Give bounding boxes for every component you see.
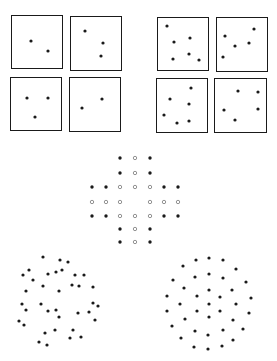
dot — [234, 267, 237, 270]
dot — [29, 39, 32, 42]
dot — [87, 310, 90, 313]
hollow-dot — [118, 214, 121, 217]
dot — [182, 286, 185, 289]
hollow-dot — [133, 240, 136, 243]
dot — [222, 108, 225, 111]
hollow-dot — [176, 200, 179, 203]
dot — [187, 119, 190, 122]
dot-box-7 — [157, 79, 208, 133]
boxed-dot-groups — [11, 16, 268, 133]
hollow-dot — [118, 185, 121, 188]
dot — [57, 315, 60, 318]
dot — [37, 340, 40, 343]
filled-dot — [176, 214, 179, 217]
dot — [188, 36, 191, 39]
dot — [207, 288, 210, 291]
dot — [46, 49, 49, 52]
dot-box-8 — [215, 79, 267, 133]
dot — [192, 345, 195, 348]
dot — [162, 113, 165, 116]
dot — [197, 58, 200, 61]
dot — [27, 268, 30, 271]
dot — [70, 283, 73, 286]
dot — [168, 97, 171, 100]
dot — [221, 55, 224, 58]
dot — [247, 41, 250, 44]
dot — [223, 34, 226, 37]
filled-dot — [90, 185, 93, 188]
filled-dot — [148, 156, 151, 159]
dot — [221, 258, 224, 261]
box-outline — [12, 16, 63, 69]
dot — [179, 336, 182, 339]
dot — [236, 89, 239, 92]
dot — [68, 336, 71, 339]
dot — [91, 301, 94, 304]
dot — [207, 302, 210, 305]
dot — [170, 324, 173, 327]
box-outline — [70, 78, 121, 132]
dot — [54, 270, 57, 273]
dot — [91, 285, 94, 288]
dot — [187, 52, 190, 55]
filled-dot — [118, 156, 121, 159]
dot — [101, 41, 104, 44]
dot — [41, 255, 44, 258]
dot — [25, 96, 28, 99]
box-outline — [215, 79, 267, 133]
dot — [99, 54, 102, 57]
dot — [165, 294, 168, 297]
dot — [17, 319, 20, 322]
dot — [234, 302, 237, 305]
filled-dot — [148, 227, 151, 230]
cross-dot-pattern — [90, 156, 179, 243]
dot — [58, 258, 61, 261]
filled-dot — [162, 214, 165, 217]
dot — [20, 302, 23, 305]
filled-dot — [176, 185, 179, 188]
filled-dot — [104, 214, 107, 217]
dot — [181, 264, 184, 267]
hollow-dot — [133, 171, 136, 174]
dot — [41, 284, 44, 287]
dot — [93, 318, 96, 321]
dot — [165, 309, 168, 312]
hollow-dot — [148, 200, 151, 203]
dot-box-2 — [71, 17, 122, 71]
dot — [46, 272, 49, 275]
hollow-dot — [133, 214, 136, 217]
dot — [171, 57, 174, 60]
dot — [206, 333, 209, 336]
filled-dot — [118, 240, 121, 243]
dot — [21, 273, 24, 276]
dot-box-4 — [70, 78, 121, 132]
dot — [256, 107, 259, 110]
dot — [43, 331, 46, 334]
filled-dot — [118, 171, 121, 174]
filled-dot — [104, 185, 107, 188]
dot — [231, 318, 234, 321]
hollow-dot — [148, 185, 151, 188]
dot — [165, 24, 168, 27]
dot — [80, 106, 83, 109]
dot — [100, 97, 103, 100]
box-outline — [217, 18, 268, 72]
dot — [82, 273, 85, 276]
dot-box-5 — [158, 18, 209, 71]
dot — [218, 295, 221, 298]
dot — [193, 329, 196, 332]
hollow-dot — [133, 185, 136, 188]
dot — [24, 289, 27, 292]
box-outline — [71, 17, 122, 71]
filled-dot — [162, 185, 165, 188]
dot — [194, 258, 197, 261]
hollow-dot — [162, 200, 165, 203]
dot — [83, 29, 86, 32]
dot — [45, 343, 48, 346]
hollow-dot — [90, 200, 93, 203]
dot — [46, 96, 49, 99]
hollow-dot — [118, 200, 121, 203]
dot — [77, 284, 80, 287]
filled-dot — [148, 171, 151, 174]
dot — [96, 304, 99, 307]
